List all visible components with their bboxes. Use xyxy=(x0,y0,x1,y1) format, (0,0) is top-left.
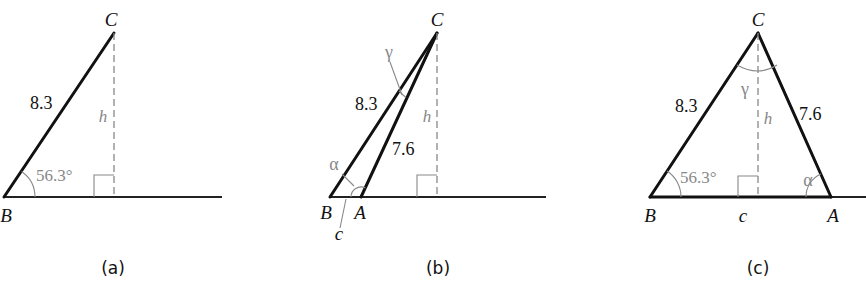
angle-arc-gamma-b xyxy=(399,91,406,98)
side-length-ac: 7.6 xyxy=(392,139,415,159)
side-label-c: c xyxy=(335,223,344,244)
vertex-label-a: A xyxy=(825,205,839,226)
right-angle-marker-b xyxy=(417,175,437,197)
vertex-label-b: B xyxy=(320,202,332,223)
vertex-label-c: C xyxy=(431,9,444,30)
angle-arc-b-c xyxy=(667,171,681,197)
angle-label-alpha: α xyxy=(329,154,339,174)
vertex-label-a: A xyxy=(352,202,366,223)
height-label: h xyxy=(99,107,108,126)
panel-a: C B 8.3 h 56.3° (a) xyxy=(0,9,222,278)
side-length-bc: 8.3 xyxy=(30,93,53,113)
caption-b: (b) xyxy=(426,258,450,278)
caption-a: (a) xyxy=(101,258,125,278)
vertex-label-c: C xyxy=(105,9,118,30)
vertex-label-b: B xyxy=(0,205,12,226)
height-label: h xyxy=(764,109,773,128)
side-length-bc: 8.3 xyxy=(675,96,698,116)
angle-arc-gamma-c xyxy=(737,65,777,71)
vertex-label-b: B xyxy=(644,205,656,226)
angle-label-gamma: γ xyxy=(384,42,393,62)
angle-label-b: 56.3° xyxy=(680,168,717,187)
leader-alpha xyxy=(342,174,354,186)
angle-label-b: 56.3° xyxy=(36,166,73,185)
leader-gamma xyxy=(390,62,402,95)
panel-b: C B A c 8.3 7.6 h α γ (b) xyxy=(320,9,546,278)
side-length-ac: 7.6 xyxy=(799,104,822,124)
caption-c: (c) xyxy=(747,258,770,278)
right-angle-marker-c xyxy=(738,176,758,197)
vertex-label-c: C xyxy=(752,9,765,30)
side-label-c: c xyxy=(739,205,748,226)
panel-c: C B A c 8.3 7.6 h 56.3° α γ (c) xyxy=(644,9,866,278)
angle-label-gamma: γ xyxy=(740,79,749,99)
right-angle-marker-a xyxy=(94,175,114,197)
side-length-bc: 8.3 xyxy=(355,94,378,114)
angle-label-alpha: α xyxy=(803,170,813,190)
side-bc-b xyxy=(330,33,437,197)
triangle-figure: C B 8.3 h 56.3° (a) C B A c 8.3 7.6 h α … xyxy=(0,0,866,298)
height-label: h xyxy=(423,107,432,126)
angle-arc-b-a xyxy=(22,172,36,198)
